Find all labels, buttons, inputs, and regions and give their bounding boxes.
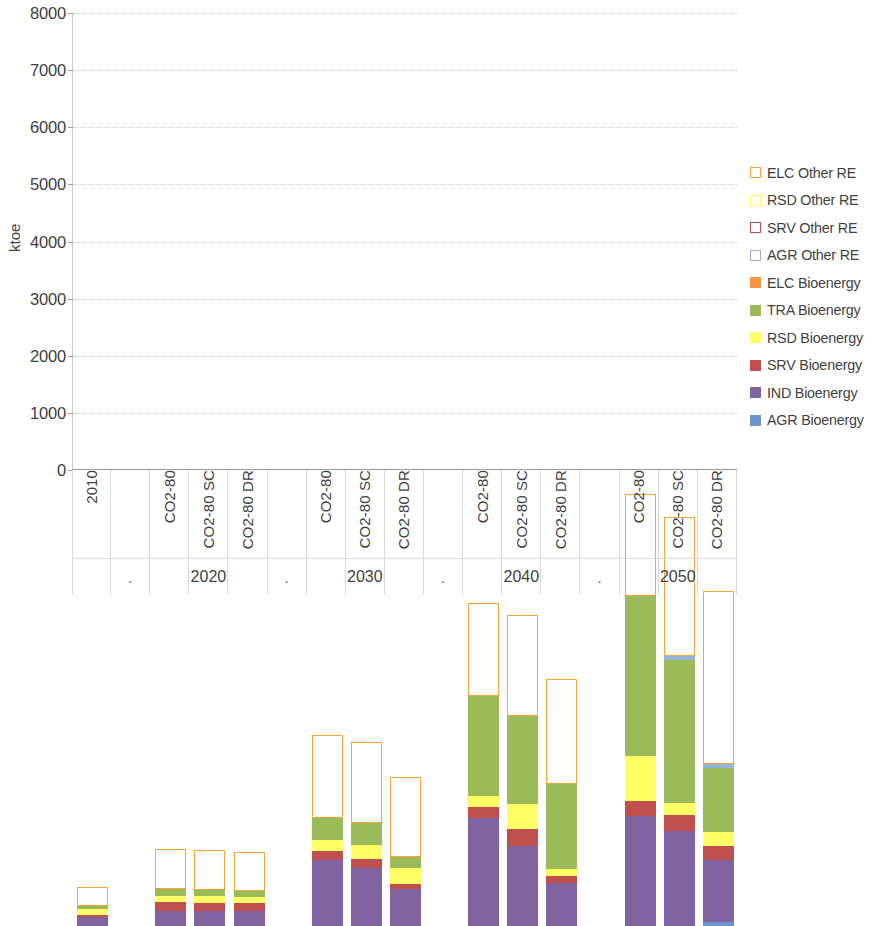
category-label: CO2-80 DR [395, 470, 412, 553]
bar-segment [468, 818, 499, 926]
bar-segment [155, 902, 186, 911]
bar-segment [312, 851, 343, 860]
bar-segment [546, 876, 577, 883]
bar-segment [351, 742, 382, 823]
bar-segment [664, 815, 695, 832]
category-label: CO2-80 [474, 470, 491, 527]
bar-segment [351, 868, 382, 926]
legend-swatch-icon [750, 305, 761, 316]
group-separator: . [580, 558, 619, 595]
bar-segment [664, 656, 695, 660]
category-label: CO2-80 DR [708, 470, 725, 553]
bar-segment [194, 896, 225, 902]
legend-label: SRV Other RE [767, 220, 857, 236]
bar-segment [625, 756, 656, 801]
legend-item[interactable]: ELC Other RE [750, 159, 883, 187]
bar-segment [77, 915, 108, 917]
bar-segment [194, 890, 225, 896]
legend-label: TRA Bioenergy [767, 302, 861, 318]
bar-segment [507, 804, 538, 829]
y-axis-tick-label: 2000 [30, 346, 66, 365]
bar-segment [77, 909, 108, 915]
legend-label: IND Bioenergy [767, 385, 857, 401]
group-label-blank [72, 558, 111, 595]
legend-swatch-icon [750, 167, 761, 178]
bar-segment [703, 591, 734, 765]
legend-label: RSD Bioenergy [767, 330, 863, 346]
bar-segment [234, 891, 265, 897]
legend-swatch-icon [750, 222, 761, 233]
gridline [73, 70, 737, 71]
legend-item[interactable]: SRV Other RE [750, 214, 883, 242]
legend-item[interactable]: AGR Bioenergy [750, 407, 883, 435]
legend-item[interactable]: RSD Other RE [750, 187, 883, 215]
bar-segment [507, 615, 538, 716]
bar-segment [234, 903, 265, 911]
bar-segment [234, 911, 265, 926]
legend-item[interactable]: TRA Bioenergy [750, 297, 883, 325]
category-label: 2010 [83, 470, 100, 508]
bar-segment [390, 857, 421, 868]
category-label: CO2-80 [317, 470, 334, 527]
group-axis: .2020.2030.2040.2050 [72, 558, 737, 595]
bar-segment [625, 816, 656, 926]
bar-segment [77, 906, 108, 909]
category-label: CO2-80 DR [552, 470, 569, 553]
bar-segment [351, 823, 382, 846]
bar-segment [155, 889, 186, 895]
group-separator: . [111, 558, 150, 595]
bar-segment [468, 603, 499, 696]
bar-segment [546, 869, 577, 875]
y-axis-tick [68, 299, 73, 300]
y-axis-tick [68, 413, 73, 414]
bar-segment [312, 860, 343, 926]
y-axis-tick-label: 6000 [30, 118, 66, 137]
bar-segment [664, 803, 695, 814]
legend-label: ELC Bioenergy [767, 275, 861, 291]
legend-swatch-icon [750, 387, 761, 398]
chart-legend: ELC Other RERSD Other RESRV Other REAGR … [750, 159, 883, 434]
legend-label: RSD Other RE [767, 192, 858, 208]
bar-segment [546, 784, 577, 869]
bar-segment [703, 768, 734, 833]
bar-segment [390, 868, 421, 885]
bar-segment [664, 831, 695, 926]
group-label-2040: 2040 [463, 558, 580, 595]
bar-segment [312, 818, 343, 840]
legend-swatch-icon [750, 277, 761, 288]
legend-swatch-icon [750, 332, 761, 343]
bar-segment [234, 897, 265, 903]
group-label-2020: 2020 [150, 558, 267, 595]
group-separator: . [268, 558, 307, 595]
gridline [73, 356, 737, 357]
legend-swatch-icon [750, 415, 761, 426]
legend-item[interactable]: IND Bioenergy [750, 379, 883, 407]
group-separator: . [424, 558, 463, 595]
y-axis-tick-label: 1000 [30, 403, 66, 422]
legend-item[interactable]: AGR Other RE [750, 242, 883, 270]
y-axis-title: ktoe [6, 224, 23, 252]
legend-label: AGR Other RE [767, 247, 859, 263]
category-label: CO2-80 SC [513, 470, 530, 552]
legend-item[interactable]: RSD Bioenergy [750, 324, 883, 352]
gridline [73, 299, 737, 300]
bar-segment [546, 679, 577, 784]
gridline [73, 242, 737, 243]
bar-segment [390, 884, 421, 889]
bar-segment [194, 911, 225, 926]
y-axis-tick [68, 184, 73, 185]
bar-segment [468, 696, 499, 797]
legend-item[interactable]: SRV Bioenergy [750, 352, 883, 380]
bar-segment [507, 846, 538, 926]
bar-segment [194, 850, 225, 890]
legend-swatch-icon [750, 195, 761, 206]
bar-segment [703, 846, 734, 860]
bar-segment [155, 911, 186, 926]
plot-area: 010002000300040005000600070008000 [72, 13, 737, 470]
group-label-2050: 2050 [620, 558, 737, 595]
bar-segment [703, 832, 734, 846]
legend-item[interactable]: ELC Bioenergy [750, 269, 883, 297]
bar-segment [703, 860, 734, 922]
y-axis-tick [68, 356, 73, 357]
bar-segment [468, 796, 499, 807]
